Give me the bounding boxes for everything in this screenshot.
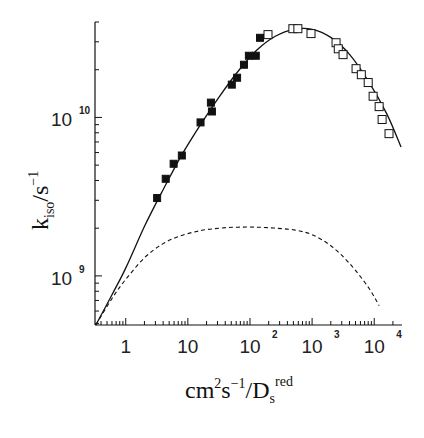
filled-square-point bbox=[240, 61, 247, 68]
y-tick-exponent: 10 bbox=[79, 105, 91, 116]
filled-square-point bbox=[162, 175, 169, 182]
filled-square-point bbox=[207, 99, 214, 106]
open-square-point bbox=[264, 31, 272, 39]
x-tick-exponent: 3 bbox=[334, 329, 340, 340]
x-tick-label: 10 bbox=[177, 336, 198, 357]
filled-square-point bbox=[245, 52, 252, 59]
x-tick-label: 1 bbox=[120, 336, 131, 357]
open-square-point bbox=[357, 71, 365, 79]
open-square-point bbox=[385, 130, 393, 138]
filled-square-point bbox=[252, 52, 259, 59]
open-square-point bbox=[307, 30, 315, 38]
dashed-component-curve bbox=[96, 227, 379, 325]
filled-square-point bbox=[208, 108, 215, 115]
filled-square-point bbox=[234, 74, 241, 81]
open-square-point bbox=[294, 25, 302, 33]
x-tick-exponent: 2 bbox=[272, 329, 278, 340]
tick-labels: 1101021031041091010 bbox=[51, 105, 402, 357]
x-axis-label: cm2s−1/Dsred bbox=[185, 374, 293, 406]
x-tick-label: 10 bbox=[364, 336, 385, 357]
points bbox=[154, 25, 393, 202]
filled-square-point bbox=[170, 160, 177, 167]
open-square-point bbox=[378, 116, 386, 124]
filled-square-point bbox=[257, 34, 264, 41]
chart: 1101021031041091010 kiso/s−1 cm2s−1/Dsre… bbox=[0, 0, 424, 438]
open-square-point bbox=[339, 51, 347, 59]
y-axis-label: kiso/s−1 bbox=[26, 171, 57, 230]
x-tick-exponent: 4 bbox=[396, 329, 402, 340]
open-square-point bbox=[364, 79, 372, 87]
x-tick-label: 10 bbox=[302, 336, 323, 357]
y-tick-label: 10 bbox=[51, 268, 72, 289]
open-square-point bbox=[375, 103, 383, 111]
filled-square-point bbox=[154, 195, 161, 202]
x-tick-label: 10 bbox=[239, 336, 260, 357]
y-tick-label: 10 bbox=[51, 109, 72, 130]
filled-square-point bbox=[228, 81, 235, 88]
y-tick-exponent: 9 bbox=[79, 264, 85, 275]
open-square-point bbox=[369, 92, 377, 100]
filled-square-point bbox=[197, 119, 204, 126]
filled-square-point bbox=[178, 152, 185, 159]
